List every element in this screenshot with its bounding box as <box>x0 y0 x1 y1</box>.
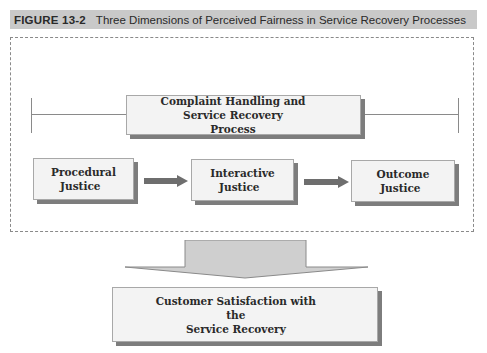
right-arrow-icon <box>304 176 349 186</box>
process-box-line1: Complaint Handling and Service Recovery <box>139 94 328 122</box>
customer-satisfaction-line1: Customer Satisfaction with the <box>153 294 318 322</box>
right-arrow-icon <box>144 175 188 185</box>
figure-label: FIGURE 13-2 <box>14 14 86 26</box>
figure-title: Three Dimensions of Perceived Fairness i… <box>96 14 466 26</box>
process-box: Complaint Handling and Service Recovery … <box>126 95 361 135</box>
down-arrow-icon <box>124 240 370 280</box>
outcome-justice-line1: Outcome <box>377 167 425 181</box>
procedural-justice-line1: Procedural <box>51 165 109 179</box>
customer-satisfaction-box: Customer Satisfaction with the Service R… <box>112 287 378 342</box>
outcome-justice-box: Outcome Justice <box>351 160 455 202</box>
figure-caption-bar: FIGURE 13-2 Three Dimensions of Perceive… <box>10 10 477 29</box>
interactive-justice-box: Interactive Justice <box>191 159 294 201</box>
process-box-line2: Process <box>139 122 328 136</box>
outcome-justice-line2: Justice <box>377 181 425 195</box>
process-span-right-tick <box>458 98 459 133</box>
process-span-left-tick <box>31 98 32 133</box>
interactive-justice-line1: Interactive <box>210 166 268 180</box>
procedural-justice-box: Procedural Justice <box>33 158 134 200</box>
customer-satisfaction-line2: Service Recovery <box>153 322 318 336</box>
interactive-justice-line2: Justice <box>210 180 268 194</box>
procedural-justice-line2: Justice <box>51 179 109 193</box>
